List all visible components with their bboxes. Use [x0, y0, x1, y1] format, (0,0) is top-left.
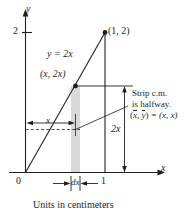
cm-x-bar-symbol: x: [133, 111, 137, 120]
cm-y-bar-symbol: y: [142, 111, 146, 120]
strip-height-label: 2x: [111, 124, 120, 134]
dx-label: dx: [71, 178, 80, 187]
strip-top-point-label: (x, 2x): [40, 69, 66, 79]
figure-caption: Units in centimeters: [33, 200, 114, 210]
line-equation-label: y = 2x: [47, 49, 73, 59]
note-line-2: is halfway.: [132, 100, 171, 109]
note-line-1: Strip c.m.: [132, 89, 167, 98]
x-distance-label: x: [46, 116, 50, 125]
figure-container: y x 2 0 1 y = 2x (x, 2x) (1, 2) dx x 2x …: [0, 0, 186, 219]
vertex-point-marker: [103, 30, 108, 35]
y-axis-label: y: [26, 4, 30, 14]
y-tick-label-2: 2: [13, 26, 18, 36]
dimension-2x-arrowhead-bottom: [122, 166, 127, 173]
cm-equation-rhs: = (x, x): [151, 110, 178, 120]
dx-arrowhead-left: [64, 181, 71, 186]
dx-arrowhead-right: [81, 181, 88, 186]
x-axis-label: x: [161, 163, 165, 173]
x-tick-label-1: 1: [101, 176, 106, 186]
dimension-x-arrowhead-left: [27, 121, 34, 126]
cm-equation: (x, y) = (x, x): [130, 111, 178, 120]
vertex-point-label: (1, 2): [108, 26, 130, 36]
origin-label: 0: [16, 176, 21, 186]
dimension-2x-arrowhead-top: [122, 86, 127, 93]
